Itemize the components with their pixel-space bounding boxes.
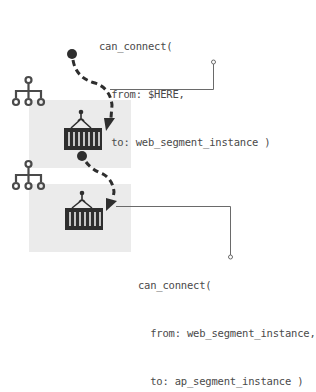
annotation-can-connect-2: can_connect( from: web_segment_instance,… [138, 245, 316, 392]
network-hierarchy-icon [13, 161, 44, 189]
source-dot-icon [77, 151, 87, 161]
shipping-container-icon [65, 191, 103, 230]
arrowhead-icon [106, 198, 117, 211]
code-line: to: ap_segment_instance ) [138, 373, 316, 389]
annotation-can-connect-1: can_connect( from: $HERE, to: web_segmen… [99, 6, 270, 182]
network-hierarchy-icon [13, 77, 44, 105]
source-dot-icon [67, 49, 77, 59]
code-line: from: web_segment_instance, [138, 325, 316, 341]
code-line: can_connect( [99, 38, 270, 54]
code-line: can_connect( [138, 277, 316, 293]
code-line: to: web_segment_instance ) [99, 134, 270, 150]
code-line: from: $HERE, [99, 86, 270, 102]
shipping-container-icon [64, 110, 102, 150]
